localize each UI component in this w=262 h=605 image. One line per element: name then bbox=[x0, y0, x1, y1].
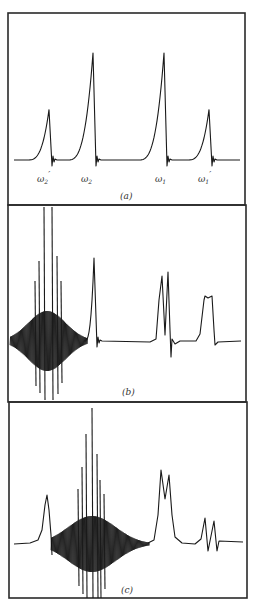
panel-a-spectrum bbox=[14, 53, 240, 166]
panel-c-spectrum bbox=[14, 408, 243, 598]
panel-b-spectrum bbox=[10, 207, 241, 400]
peak-label-omega2: ω2 bbox=[81, 174, 92, 185]
peak-label-omega1: ω1 bbox=[155, 174, 166, 185]
panel-a-caption: (a) bbox=[120, 191, 133, 201]
figure: ω2′ ω2 ω1 ω1′ (a) (b) (c) bbox=[0, 0, 262, 605]
peak-label-omega2-prime: ω2′ bbox=[37, 170, 50, 185]
panel-b-caption: (b) bbox=[122, 387, 135, 397]
panel-c-frame bbox=[9, 402, 247, 598]
peak-label-omega1-prime: ω1′ bbox=[198, 170, 211, 185]
panel-c-caption: (c) bbox=[121, 585, 134, 595]
